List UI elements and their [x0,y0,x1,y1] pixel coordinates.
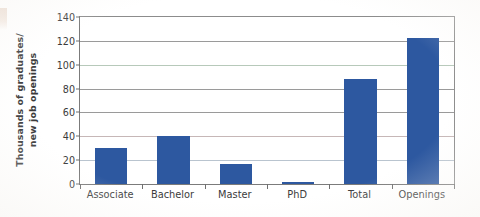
y-tick-label-20: 20 [63,155,75,166]
bar-series [80,17,454,184]
y-tick-label-0: 0 [69,179,75,190]
bar-bachelor[interactable] [157,136,189,184]
y-tick-label-140: 140 [57,12,75,23]
bar-phd[interactable] [282,182,314,184]
y-tick-label-120: 120 [57,35,75,46]
x-tick-label-openings: Openings [399,189,445,200]
y-tick-label-60: 60 [63,107,75,118]
bar-chart-figure: Thousands of graduates/ new job openings… [0,0,480,217]
bar-total[interactable] [344,79,376,184]
x-tick-label-associate: Associate [87,189,134,200]
plot-area: 020406080100120140 [79,16,455,185]
y-tick-label-80: 80 [63,83,75,94]
bar-master[interactable] [220,164,252,184]
x-axis-labels: AssociateBachelorMasterPhDTotalOpenings [79,189,455,211]
y-axis-title-line1: Thousands of graduates/ [14,33,27,167]
x-tick-label-phd: PhD [287,189,307,200]
x-tick-label-total: Total [348,189,371,200]
x-tick-label-master: Master [218,189,251,200]
y-axis-title-line2: new job openings [26,33,39,167]
y-tick-label-100: 100 [57,59,75,70]
bar-openings[interactable] [407,38,439,184]
x-tick-label-bachelor: Bachelor [151,189,194,200]
y-axis-title: Thousands of graduates/ new job openings [6,14,46,186]
bar-associate[interactable] [95,148,127,184]
y-tick-label-40: 40 [63,131,75,142]
